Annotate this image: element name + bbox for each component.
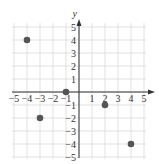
y-tick-label: −4 bbox=[65, 139, 76, 150]
x-tick-label: 3 bbox=[116, 93, 121, 104]
data-point bbox=[63, 89, 70, 96]
y-tick-label: −1 bbox=[65, 100, 76, 111]
x-tick-label: −3 bbox=[35, 93, 46, 104]
x-tick-label: −4 bbox=[22, 93, 33, 104]
data-point bbox=[128, 141, 135, 148]
x-tick-label: 1 bbox=[90, 93, 95, 104]
y-tick-label: 3 bbox=[71, 48, 76, 59]
x-axis-arrow-icon bbox=[148, 90, 155, 95]
y-tick-label: 2 bbox=[71, 61, 76, 72]
x-tick-label: 5 bbox=[142, 93, 147, 104]
data-point bbox=[102, 102, 109, 109]
y-tick-label: 1 bbox=[71, 74, 76, 85]
y-tick-label: −5 bbox=[65, 152, 76, 163]
x-tick-label: 4 bbox=[129, 93, 134, 104]
axes: y bbox=[12, 8, 155, 158]
x-tick-label: −5 bbox=[9, 93, 20, 104]
y-tick-label: −2 bbox=[65, 113, 76, 124]
x-tick-label: −2 bbox=[48, 93, 59, 104]
y-axis-arrow-icon bbox=[77, 19, 82, 26]
y-axis-title: y bbox=[72, 8, 78, 19]
data-point bbox=[24, 37, 31, 44]
y-tick-label: −3 bbox=[65, 126, 76, 137]
y-tick-label: 5 bbox=[71, 22, 76, 33]
data-point bbox=[37, 115, 44, 122]
coordinate-plane: y −5−4−3−2−112345 −5−4−3−2−112345 bbox=[0, 0, 159, 164]
x-tick-labels: −5−4−3−2−112345 bbox=[9, 93, 147, 104]
y-tick-label: 4 bbox=[71, 35, 76, 46]
